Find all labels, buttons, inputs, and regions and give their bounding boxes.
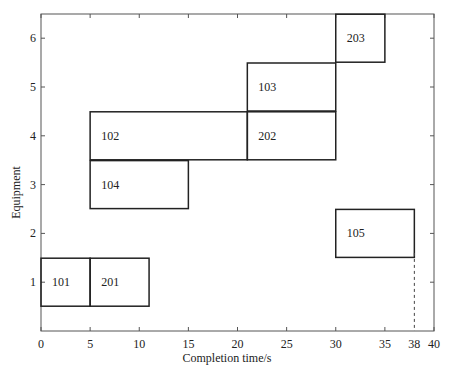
x-tick-label: 40 [428, 338, 440, 350]
task-label: 102 [101, 130, 119, 142]
gantt-plot [0, 0, 454, 375]
task-label: 201 [101, 276, 119, 288]
x-tick-label: 25 [281, 338, 293, 350]
y-tick-label: 3 [30, 179, 36, 191]
task-label: 105 [347, 227, 365, 239]
task-bar-201 [90, 258, 149, 306]
y-tick-label: 2 [30, 227, 36, 239]
x-tick-label: 0 [38, 338, 44, 350]
y-tick-label: 1 [30, 276, 36, 288]
task-label: 104 [101, 179, 119, 191]
y-tick-label: 6 [30, 32, 36, 44]
x-tick-label: 30 [330, 338, 342, 350]
task-label: 101 [52, 276, 70, 288]
x-tick-label: 5 [87, 338, 93, 350]
x-axis-label: Completion time/s [0, 351, 454, 366]
y-tick-label: 5 [30, 81, 36, 93]
y-axis-label: Equipment [9, 163, 24, 223]
x-tick-label: 15 [182, 338, 194, 350]
x-tick-label: 10 [133, 338, 145, 350]
task-label: 202 [258, 130, 276, 142]
x-tick-label: 35 [379, 338, 391, 350]
task-label: 203 [347, 32, 365, 44]
task-label: 103 [258, 81, 276, 93]
x-tick-label: 20 [232, 338, 244, 350]
y-tick-label: 4 [30, 130, 36, 142]
x-tick-label: 38 [408, 338, 420, 350]
